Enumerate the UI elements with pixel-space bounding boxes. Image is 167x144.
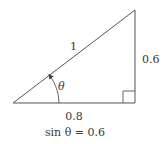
adjacent-label: 0.8 xyxy=(65,110,83,123)
angle-label: θ xyxy=(58,80,65,93)
equation-label: sin θ = 0.6 xyxy=(45,126,105,139)
hypotenuse-line xyxy=(13,10,135,103)
triangle-diagram: 1 0.6 0.8 θ sin θ = 0.6 xyxy=(0,0,167,144)
opposite-label: 0.6 xyxy=(142,53,160,66)
right-angle-marker xyxy=(123,91,135,103)
hypotenuse-label: 1 xyxy=(70,40,77,53)
